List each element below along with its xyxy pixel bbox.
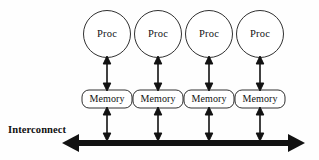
memory-label-4: Memory <box>235 93 285 105</box>
diagram-canvas: Proc Proc Proc Proc Memory Memory Memory… <box>0 0 319 160</box>
interconnect-label: Interconnect <box>8 124 66 135</box>
memory-label-2: Memory <box>133 93 183 105</box>
interconnect-bus-bar <box>76 140 289 146</box>
processor-label-1: Proc <box>84 28 130 40</box>
arrowhead-down-icon <box>205 133 213 141</box>
bus-arrowhead-right-icon <box>288 134 305 152</box>
interconnect-bus[interactable] <box>62 134 305 152</box>
memory-label-1: Memory <box>82 93 132 105</box>
diagram-vector-layer <box>0 0 319 160</box>
memory-bus-links <box>103 107 264 141</box>
arrowhead-down-icon <box>103 133 111 141</box>
arrowhead-down-icon <box>154 133 162 141</box>
bus-arrowhead-left-icon <box>62 134 79 152</box>
memory-bus-link-2 <box>154 107 162 141</box>
memory-bus-link-3 <box>205 107 213 141</box>
memory-bus-link-1 <box>103 107 111 141</box>
processor-label-2: Proc <box>135 28 181 40</box>
arrowhead-down-icon <box>256 133 264 141</box>
processor-memory-link-4 <box>256 56 264 91</box>
memory-bus-link-4 <box>256 107 264 141</box>
processor-label-4: Proc <box>237 28 283 40</box>
processor-memory-links <box>103 56 264 91</box>
memory-label-3: Memory <box>184 93 234 105</box>
processor-label-3: Proc <box>186 28 232 40</box>
processor-memory-link-2 <box>154 56 162 91</box>
processor-memory-link-1 <box>103 56 111 91</box>
processor-memory-link-3 <box>205 56 213 91</box>
